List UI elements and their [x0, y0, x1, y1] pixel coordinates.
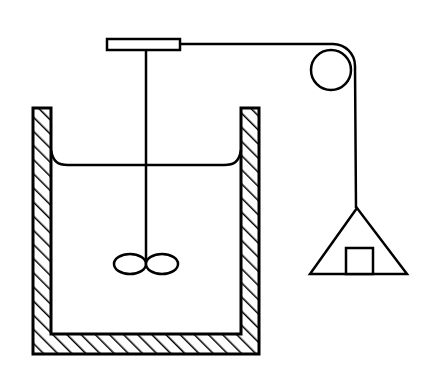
mass — [346, 248, 373, 274]
pulley — [311, 50, 351, 90]
drum — [107, 39, 180, 50]
apparatus-diagram — [0, 0, 433, 379]
